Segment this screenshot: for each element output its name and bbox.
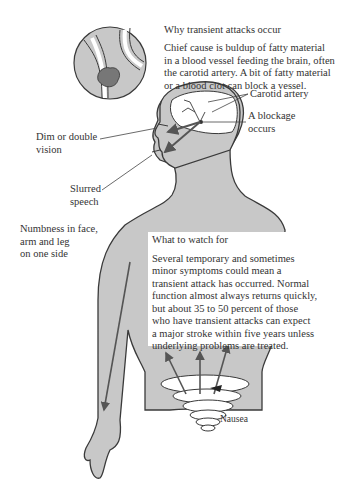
- why-line: the carotid artery. A bit of fatty mater…: [164, 67, 335, 80]
- label-speech-line: Slurred: [70, 183, 101, 196]
- label-numbness-line: on one side: [20, 248, 98, 261]
- magnified-artery: [74, 27, 146, 99]
- why-line: in a blood vessel feeding the brain, oft…: [164, 55, 335, 68]
- label-blockage-line: A blockage: [248, 110, 296, 123]
- why-line: Chief cause is buldup of fatty material: [164, 42, 335, 55]
- watch-line: but about 35 to 50 percent of those: [152, 303, 346, 316]
- watch-paragraph: Several temporary and sometimes minor sy…: [152, 253, 346, 353]
- watch-line: minor symptoms could mean a: [152, 265, 346, 278]
- label-vision-line: Dim or double: [36, 131, 97, 144]
- watch-line: Several temporary and sometimes: [152, 253, 346, 266]
- leader-speech: [102, 155, 152, 190]
- label-numbness: Numbness in face, arm and leg on one sid…: [20, 223, 98, 261]
- why-paragraph: Chief cause is buldup of fatty material …: [164, 42, 335, 92]
- watch-line: a major stroke within five years unless: [152, 328, 346, 341]
- fatty-clot: [98, 68, 120, 87]
- leader-vision: [100, 128, 157, 139]
- watch-line: underlying problems are treated.: [152, 340, 346, 353]
- label-carotid-artery: Carotid artery: [250, 88, 309, 101]
- watch-box: What to watch for Several temporary and …: [148, 232, 346, 346]
- label-vision: Dim or double vision: [36, 131, 97, 156]
- label-numbness-line: Numbness in face,: [20, 223, 98, 236]
- label-numbness-line: arm and leg: [20, 236, 98, 249]
- label-blockage-line: occurs: [248, 123, 296, 136]
- label-speech: Slurred speech: [70, 183, 101, 208]
- watch-line: transient attack has occurred. Normal: [152, 278, 346, 291]
- label-nausea: Nausea: [220, 413, 248, 426]
- watch-line: function almost always returns quickly,: [152, 290, 346, 303]
- watch-line: who have transient attacks can expect: [152, 315, 346, 328]
- label-blockage: A blockage occurs: [248, 110, 296, 135]
- why-heading: Why transient attacks occur: [164, 24, 281, 37]
- watch-heading: What to watch for: [152, 234, 346, 247]
- label-speech-line: speech: [70, 196, 101, 209]
- label-vision-line: vision: [36, 144, 97, 157]
